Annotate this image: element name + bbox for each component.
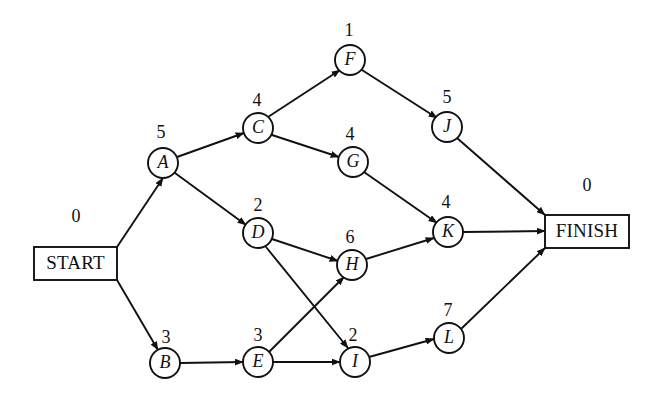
node-d[interactable]: D2: [243, 195, 273, 248]
edge-d-to-h: [272, 239, 338, 261]
edge-start-to-a: [117, 178, 163, 247]
edge-i-to-l: [369, 339, 434, 357]
node-duration-g: 4: [346, 124, 355, 144]
node-a[interactable]: A5: [148, 122, 178, 178]
node-duration-f: 1: [345, 20, 354, 40]
edges-layer: [117, 70, 545, 363]
node-i[interactable]: I2: [340, 325, 370, 377]
terminal-label-finish: FINISH: [556, 220, 619, 241]
node-duration-b: 3: [162, 327, 171, 347]
terminal-label-start: START: [46, 252, 105, 273]
edge-e-to-h: [269, 277, 344, 352]
edge-j-to-finish: [457, 138, 545, 215]
node-k[interactable]: K4: [433, 192, 463, 247]
edge-h-to-k: [366, 238, 434, 259]
node-l[interactable]: L7: [434, 300, 464, 353]
node-duration-i: 2: [349, 325, 358, 345]
node-label-k: K: [441, 221, 455, 241]
node-e[interactable]: E3: [243, 325, 273, 377]
node-label-f: F: [344, 49, 357, 69]
edge-a-to-c: [177, 133, 244, 157]
terminal-finish[interactable]: FINISH0: [545, 175, 629, 248]
edge-c-to-g: [272, 135, 339, 157]
node-label-a: A: [157, 152, 170, 172]
node-duration-c: 4: [253, 90, 262, 110]
edge-k-to-finish: [463, 231, 545, 232]
edge-start-to-b: [117, 280, 158, 350]
network-diagram-canvas: A5B3C4D2E3F1G4H6I2J5K4L7 START0FINISH0: [0, 0, 657, 401]
edge-f-to-j: [362, 70, 437, 118]
node-f[interactable]: F1: [335, 20, 365, 75]
edge-a-to-d: [175, 173, 246, 225]
node-label-d: D: [251, 222, 265, 242]
terminal-start[interactable]: START0: [34, 206, 117, 280]
edge-g-to-k: [364, 172, 437, 223]
node-duration-h: 6: [346, 227, 355, 247]
node-label-i: I: [351, 351, 359, 371]
node-label-e: E: [252, 351, 264, 371]
node-duration-l: 7: [444, 300, 453, 320]
edge-c-to-f: [268, 70, 340, 117]
node-label-j: J: [443, 116, 452, 136]
node-label-b: B: [160, 352, 171, 372]
terminal-duration-finish: 0: [583, 175, 592, 195]
terminals-layer: START0FINISH0: [34, 175, 629, 280]
edge-l-to-finish: [461, 248, 545, 329]
node-label-l: L: [443, 327, 454, 347]
node-h[interactable]: H6: [337, 227, 367, 280]
node-duration-d: 2: [254, 195, 263, 215]
node-j[interactable]: J5: [432, 87, 462, 142]
nodes-layer: A5B3C4D2E3F1G4H6I2J5K4L7: [148, 20, 464, 378]
terminal-duration-start: 0: [72, 206, 81, 226]
network-diagram: A5B3C4D2E3F1G4H6I2J5K4L7 START0FINISH0: [0, 0, 657, 401]
edge-b-to-e: [180, 362, 243, 363]
node-b[interactable]: B3: [150, 327, 180, 378]
node-duration-j: 5: [443, 87, 452, 107]
node-duration-a: 5: [157, 122, 166, 142]
node-label-h: H: [345, 254, 360, 274]
node-c[interactable]: C4: [243, 90, 273, 143]
node-label-g: G: [347, 151, 360, 171]
node-g[interactable]: G4: [338, 124, 368, 177]
node-duration-k: 4: [442, 192, 451, 212]
node-label-c: C: [252, 117, 265, 137]
edge-d-to-i: [266, 247, 348, 348]
node-duration-e: 3: [254, 325, 263, 345]
